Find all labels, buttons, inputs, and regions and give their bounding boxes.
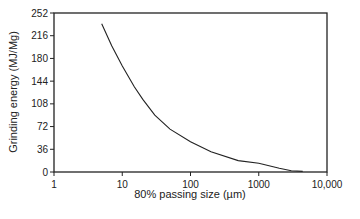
y-tick-label: 252 [31, 8, 48, 19]
y-axis-title: Grinding energy (MJ/Mg) [7, 31, 19, 153]
y-tick-label: 36 [37, 144, 49, 155]
x-axis-title: 80% passing size (µm) [134, 188, 246, 200]
y-tick-label: 0 [42, 167, 48, 178]
y-tick-label: 180 [31, 53, 48, 64]
chart: 03672108144180216252 110100100010,000 80… [0, 0, 360, 219]
x-tick-label: 1 [51, 179, 57, 190]
y-axis: 03672108144180216252 [31, 8, 54, 178]
y-tick-label: 108 [31, 98, 48, 109]
x-tick-label: 10 [117, 179, 129, 190]
x-tick-label: 1000 [248, 179, 271, 190]
y-tick-label: 144 [31, 76, 48, 87]
x-tick-label: 10,000 [312, 179, 343, 190]
y-tick-label: 216 [31, 30, 48, 41]
y-tick-label: 72 [37, 121, 49, 132]
plot-frame [54, 13, 327, 172]
energy-curve [102, 24, 303, 172]
